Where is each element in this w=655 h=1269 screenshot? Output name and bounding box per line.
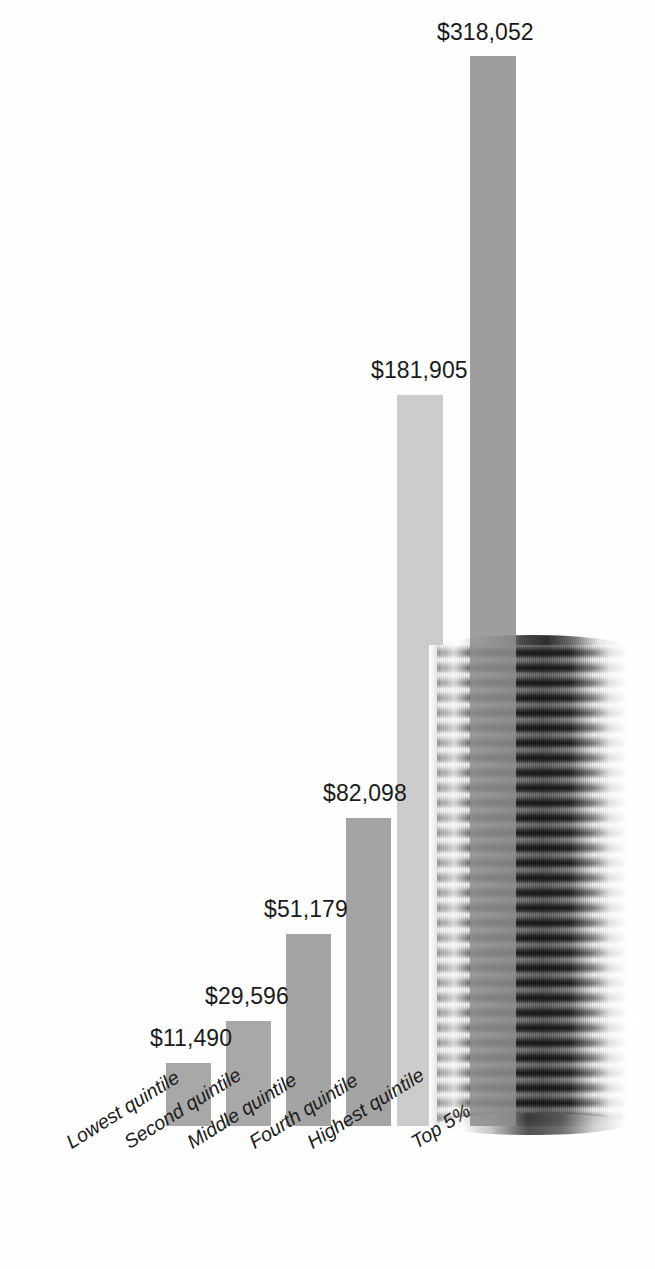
bar-top-5 [470, 56, 516, 1126]
coin-stack-body [437, 645, 627, 1126]
income-quintile-bar-chart: $11,490$29,596$51,179$82,098$181,905$318… [0, 0, 655, 1269]
value-label-second-quintile: $29,596 [205, 983, 289, 1010]
value-label-top-5: $318,052 [437, 19, 534, 46]
coin-stack-photo [437, 645, 627, 1126]
plot-area: $11,490$29,596$51,179$82,098$181,905$318… [0, 0, 655, 1269]
value-label-highest-quintile: $181,905 [371, 357, 468, 384]
value-label-middle-quintile: $51,179 [264, 896, 348, 923]
value-label-lowest-quintile: $11,490 [150, 1025, 232, 1052]
value-label-fourth-quintile: $82,098 [323, 780, 407, 807]
